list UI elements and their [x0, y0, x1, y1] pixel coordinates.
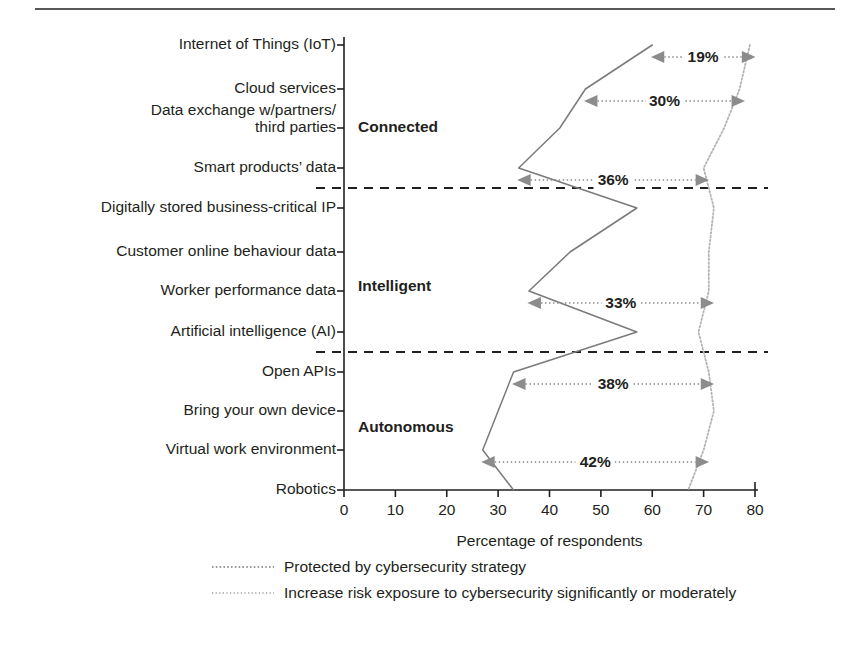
x-tick-label: 60	[644, 501, 661, 519]
x-tick-label: 40	[541, 501, 558, 519]
x-axis-title: Percentage of respondents	[456, 532, 642, 550]
gap-annotation-label: 30%	[645, 92, 684, 110]
gap-annotation-label: 38%	[594, 375, 633, 393]
chart-plot	[0, 0, 850, 651]
legend-item: Increase risk exposure to cybersecurity …	[212, 584, 736, 602]
gap-arrows	[495, 57, 742, 462]
category-label-line: Robotics	[276, 480, 336, 497]
series-lines	[483, 45, 750, 490]
category-label: Robotics	[276, 480, 336, 497]
category-label: Artificial intelligence (AI)	[171, 322, 336, 339]
x-tick-label: 30	[490, 501, 507, 519]
gap-annotation-label: 36%	[594, 171, 633, 189]
gap-annotation-label: 19%	[684, 48, 723, 66]
group-label: Connected	[358, 118, 438, 136]
category-label: Open APIs	[262, 362, 336, 379]
group-label: Autonomous	[358, 418, 454, 436]
category-label-line: Data exchange w/partners/	[151, 101, 336, 118]
category-label-line: Worker performance data	[161, 281, 336, 298]
group-label: Intelligent	[358, 277, 431, 295]
x-tick-label: 0	[340, 501, 349, 519]
x-tick-label: 20	[438, 501, 455, 519]
category-label: Worker performance data	[161, 281, 336, 298]
gap-annotation-label: 33%	[601, 294, 640, 312]
category-label: Internet of Things (IoT)	[179, 35, 336, 52]
category-label-line: Open APIs	[262, 362, 336, 379]
legend-label: Protected by cybersecurity strategy	[284, 558, 526, 576]
category-label-line: Customer online behaviour data	[116, 242, 336, 259]
category-label-line: Digitally stored business-critical IP	[101, 198, 336, 215]
category-label-line: Cloud services	[234, 79, 336, 96]
category-label: Cloud services	[234, 79, 336, 96]
category-label-line: Bring your own device	[184, 401, 337, 418]
category-label: Virtual work environment	[166, 440, 336, 457]
category-label-line: third parties	[151, 118, 336, 135]
chart-page: Internet of Things (IoT)Cloud servicesDa…	[0, 0, 850, 651]
category-label: Customer online behaviour data	[116, 242, 336, 259]
x-tick-label: 50	[592, 501, 609, 519]
x-tick-label: 80	[746, 501, 763, 519]
gap-annotation-label: 42%	[576, 453, 615, 471]
legend-label: Increase risk exposure to cybersecurity …	[284, 584, 736, 602]
category-label: Smart products’ data	[194, 158, 336, 175]
category-label: Data exchange w/partners/third parties	[151, 101, 336, 136]
category-label-line: Smart products’ data	[194, 158, 336, 175]
category-label: Bring your own device	[184, 401, 337, 418]
x-tick-label: 10	[387, 501, 404, 519]
legend-item: Protected by cybersecurity strategy	[212, 558, 526, 576]
legend-line-dotted-icon	[212, 588, 274, 598]
x-tick-label: 70	[695, 501, 712, 519]
category-label: Digitally stored business-critical IP	[101, 198, 336, 215]
category-label-line: Artificial intelligence (AI)	[171, 322, 336, 339]
category-label-line: Virtual work environment	[166, 440, 336, 457]
legend-line-solid-icon	[212, 562, 274, 572]
category-label-line: Internet of Things (IoT)	[179, 35, 336, 52]
